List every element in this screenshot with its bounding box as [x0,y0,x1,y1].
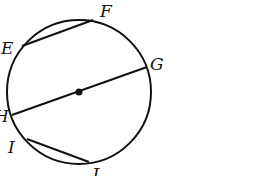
circle-diagram: F E G H I J [0,0,256,176]
label-i: I [7,137,15,157]
label-f: F [99,1,113,21]
center-point [76,89,83,96]
label-j: J [89,164,100,176]
label-g: G [150,54,164,74]
label-e: E [0,38,14,58]
label-h: H [0,106,10,126]
